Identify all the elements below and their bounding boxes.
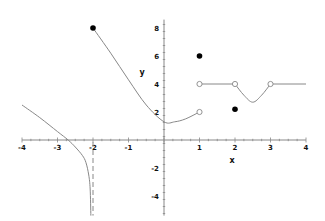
function-graph: -4-3-2-112348642-2-4 x y: [0, 0, 325, 221]
axes: [22, 20, 306, 216]
right-dip-curve: [235, 84, 271, 102]
x-tick-label: 2: [233, 144, 238, 152]
x-tick-label: 1: [197, 144, 202, 152]
y-tick-label: 4: [154, 81, 159, 89]
x-tick-label: -1: [125, 144, 133, 152]
open-point: [232, 81, 237, 86]
points: [90, 25, 273, 114]
y-tick-label: -4: [151, 193, 159, 201]
open-point: [197, 81, 202, 86]
y-tick-label: 8: [154, 25, 159, 33]
tick-labels: -4-3-2-112348642-2-4: [18, 25, 308, 201]
left-branch-curve: [22, 105, 91, 216]
middle-branch-curve: [93, 28, 200, 123]
y-tick-label: -2: [151, 165, 159, 173]
y-tick-label: 6: [154, 53, 159, 61]
open-point: [197, 109, 202, 114]
closed-point: [197, 53, 203, 59]
y-axis-label: y: [139, 68, 145, 77]
x-tick-label: 4: [304, 144, 309, 152]
open-point: [268, 81, 273, 86]
closed-point: [232, 106, 238, 112]
x-tick-label: -3: [54, 144, 62, 152]
closed-point: [90, 25, 96, 31]
x-tick-label: 3: [268, 144, 273, 152]
y-tick-label: 2: [154, 109, 159, 117]
x-axis-label: x: [229, 156, 235, 165]
x-tick-label: -4: [18, 144, 26, 152]
